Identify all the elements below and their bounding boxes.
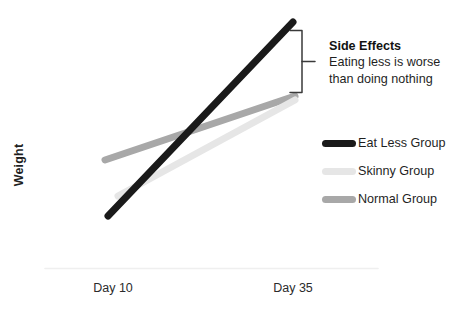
annotation-bracket-icon [290, 31, 302, 93]
y-axis-label: Weight [12, 120, 32, 210]
annotation-line-2: than doing nothing [329, 71, 465, 88]
legend-label-normal-group: Normal Group [358, 190, 437, 208]
annotation-line-1: Eating less is worse [329, 54, 465, 71]
legend-swatch-icon-normal-group [322, 196, 356, 203]
legend-item-skinny-group[interactable]: Skinny Group [322, 160, 466, 188]
chart-legend: Eat Less Group Skinny Group Normal Group [322, 132, 466, 216]
annotation-callout: Side Effects Eating less is worse than d… [329, 38, 465, 88]
legend-item-eat-less-group[interactable]: Eat Less Group [322, 132, 466, 160]
legend-label-eat-less-group: Eat Less Group [358, 134, 446, 152]
annotation-title: Side Effects [329, 38, 465, 54]
chart-figure: Weight Day 10 Day 35 Side Effects Eating… [0, 0, 466, 315]
x-axis-tick-label-day-35: Day 35 [258, 281, 328, 295]
legend-swatch-icon-eat-less-group [322, 140, 356, 147]
x-axis-tick-label-day-10: Day 10 [78, 281, 148, 295]
legend-label-skinny-group: Skinny Group [358, 162, 434, 180]
legend-item-normal-group[interactable]: Normal Group [322, 188, 466, 216]
legend-swatch-icon-skinny-group [322, 168, 356, 175]
